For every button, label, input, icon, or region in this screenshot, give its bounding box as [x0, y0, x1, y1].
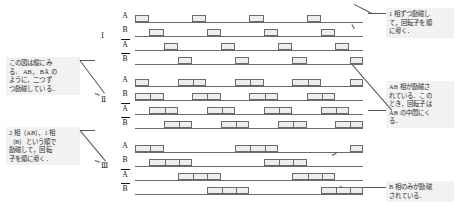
pulse-segment-divider: [207, 174, 208, 179]
phase-label-a: A: [118, 11, 132, 20]
excitation-pulse: [135, 15, 149, 22]
pulse-segment-divider: [150, 94, 151, 99]
pulse-segment-divider: [193, 80, 194, 85]
group-numeral-3: Ⅲ: [101, 161, 109, 170]
note-top-right: 1 相ずつ励磁し て，回転子を順 に導く．: [386, 8, 454, 38]
waveform-track: [135, 102, 363, 116]
pulse-segment-divider: [279, 108, 280, 113]
phase-label-text: B: [122, 184, 127, 193]
leader-left-lower-stub: [80, 130, 95, 131]
phase-label-b: B: [118, 89, 132, 98]
excitation-pulse: [235, 57, 249, 64]
note-bottom-right: B 相のみが励磁 されている．: [386, 181, 454, 202]
pulse-segment-divider: [207, 94, 208, 99]
excitation-pulse: [221, 43, 235, 50]
pulse-segment-divider: [308, 174, 309, 179]
phase-label-a: A: [118, 75, 132, 84]
group-numeral-1: Ⅰ: [101, 31, 104, 40]
excitation-pulse: [307, 15, 321, 22]
excitation-pulse: [278, 121, 307, 128]
phase-label-a-bar: A: [118, 103, 132, 113]
figure-canvas: 1 相ずつ励磁し て，回転子を順 に導く． この図は縦にみ る． AB， BĀ …: [0, 0, 456, 213]
excitation-pulse: [207, 187, 250, 194]
excitation-pulse: [235, 79, 264, 86]
pulse-segment-divider: [322, 94, 323, 99]
pulse-segment-divider: [236, 122, 237, 127]
pulse-segment-divider: [322, 174, 323, 179]
pulse-segment-divider: [236, 188, 237, 193]
phase-label-text: B: [122, 118, 127, 127]
phase-label-text: A: [122, 141, 127, 150]
waveform-track: [135, 88, 363, 102]
excitation-pulse: [335, 121, 363, 128]
phase-label-text: A: [122, 104, 127, 113]
waveform-track: [135, 168, 363, 182]
phase-label-text: B: [122, 54, 127, 63]
waveform-track: [135, 116, 363, 130]
pulse-segment-divider: [193, 174, 194, 179]
excitation-pulse: [135, 93, 164, 100]
pulse-segment-divider: [265, 146, 266, 151]
phase-label-b-bar: B: [118, 53, 132, 63]
phase-label-a: A: [118, 141, 132, 150]
excitation-pulse: [350, 79, 364, 86]
phase-label-text: B: [122, 155, 127, 164]
leader-left-lower-arrowhead: [95, 160, 99, 162]
excitation-pulse: [164, 121, 193, 128]
pulse-segment-divider: [250, 146, 251, 151]
excitation-pulse: [149, 159, 192, 166]
pulse-segment-divider: [279, 160, 280, 165]
pulse-segment-divider: [179, 122, 180, 127]
phase-label-b: B: [118, 25, 132, 34]
leader-middle-right-stub: [368, 110, 386, 111]
pulse-segment-divider: [179, 160, 180, 165]
pulse-segment-divider: [308, 80, 309, 85]
pulse-segment-divider: [150, 146, 151, 151]
group-numeral-2: Ⅱ: [101, 95, 106, 104]
leader-left-upper-arrowhead: [95, 93, 99, 95]
excitation-pulse: [321, 29, 335, 36]
pulse-segment-divider: [222, 188, 223, 193]
excitation-pulse: [192, 15, 206, 22]
excitation-pulse: [292, 57, 306, 64]
leader-left-upper-diagonal: [80, 60, 105, 93]
excitation-pulse: [264, 107, 293, 114]
excitation-pulse: [292, 79, 321, 86]
excitation-pulse: [350, 57, 364, 64]
excitation-pulse: [164, 43, 178, 50]
waveform-track: [135, 182, 363, 196]
note-middle-right: AB 相が励磁さ れている．この とき，回転子は AB の中間にく る．: [386, 81, 454, 128]
excitation-pulse: [321, 187, 363, 194]
pulse-segment-divider: [165, 160, 166, 165]
pulse-segment-divider: [350, 122, 351, 127]
excitation-pulse: [292, 173, 335, 180]
phase-label-a-bar: A: [118, 39, 132, 49]
pulse-segment-divider: [350, 188, 351, 193]
phase-label-b-bar: B: [118, 117, 132, 127]
pulse-segment-divider: [336, 188, 337, 193]
phase-label-text: A: [122, 170, 127, 179]
excitation-pulse: [178, 57, 192, 64]
phase-label-text: A: [122, 75, 127, 84]
phase-label-b-bar: B: [118, 183, 132, 193]
excitation-pulse: [221, 121, 250, 128]
excitation-pulse: [207, 29, 221, 36]
phase-label-b: B: [118, 155, 132, 164]
excitation-pulse: [135, 145, 164, 152]
waveform-track: [135, 52, 363, 66]
excitation-pulse: [335, 43, 349, 50]
pulse-segment-divider: [165, 108, 166, 113]
excitation-pulse: [307, 93, 336, 100]
excitation-pulse: [149, 29, 163, 36]
pulse-segment-divider: [250, 80, 251, 85]
waveform-track: [135, 10, 363, 24]
excitation-pulse: [249, 15, 263, 22]
phase-label-a-bar: A: [118, 169, 132, 179]
phase-label-text: B: [122, 25, 127, 34]
excitation-pulse: [350, 145, 364, 152]
leader-left-lower-diagonal: [80, 130, 106, 161]
excitation-pulse: [321, 107, 350, 114]
waveform-track: [135, 38, 363, 52]
excitation-pulse: [235, 145, 278, 152]
waveform-track: [135, 74, 363, 88]
